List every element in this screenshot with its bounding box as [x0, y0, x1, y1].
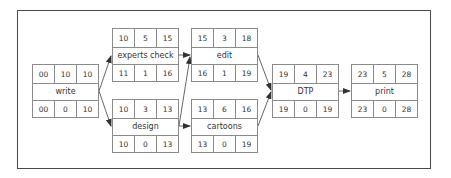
node-dtp: 19 4 23 DTP 19 0 19 [272, 64, 339, 118]
float: 1 [135, 65, 157, 82]
latest-start: 10 [113, 136, 135, 153]
earliest-finish: 15 [157, 29, 178, 47]
latest-finish: 10 [77, 101, 98, 118]
float: 0 [135, 136, 157, 153]
latest-start: 19 [273, 101, 295, 118]
node-label: experts check [113, 47, 178, 64]
duration: 3 [135, 100, 157, 118]
earliest-start: 10 [113, 100, 135, 118]
node-design: 10 3 13 design 10 0 13 [112, 99, 179, 153]
earliest-start: 10 [113, 29, 135, 47]
latest-finish: 19 [236, 136, 257, 153]
latest-finish: 19 [317, 101, 338, 118]
earliest-finish: 13 [157, 100, 178, 118]
node-write: 00 10 10 write 00 0 10 [32, 64, 99, 118]
float: 0 [55, 101, 77, 118]
duration: 10 [55, 65, 77, 83]
duration: 5 [135, 29, 157, 47]
duration: 5 [374, 65, 396, 83]
earliest-finish: 10 [77, 65, 98, 83]
earliest-start: 15 [192, 29, 214, 47]
earliest-start: 00 [33, 65, 55, 83]
latest-start: 11 [113, 65, 135, 82]
latest-finish: 16 [157, 65, 178, 82]
latest-start: 23 [352, 101, 374, 118]
node-label: write [33, 83, 98, 100]
earliest-finish: 16 [236, 100, 257, 118]
earliest-finish: 23 [317, 65, 338, 83]
float: 1 [214, 65, 236, 82]
node-label: cartoons [192, 118, 257, 135]
latest-start: 16 [192, 65, 214, 82]
earliest-start: 23 [352, 65, 374, 83]
node-label: print [352, 83, 417, 100]
duration: 4 [295, 65, 317, 83]
latest-start: 00 [33, 101, 55, 118]
node-label: edit [192, 47, 257, 64]
earliest-start: 19 [273, 65, 295, 83]
node-label: design [113, 118, 178, 135]
node-experts-check: 10 5 15 experts check 11 1 16 [112, 28, 179, 82]
duration: 3 [214, 29, 236, 47]
float: 0 [295, 101, 317, 118]
earliest-finish: 28 [396, 65, 417, 83]
node-print: 23 5 28 print 23 0 28 [351, 64, 418, 118]
float: 0 [374, 101, 396, 118]
float: 0 [214, 136, 236, 153]
latest-finish: 28 [396, 101, 417, 118]
latest-finish: 19 [236, 65, 257, 82]
node-label: DTP [273, 83, 338, 100]
earliest-start: 13 [192, 100, 214, 118]
earliest-finish: 18 [236, 29, 257, 47]
duration: 6 [214, 100, 236, 118]
node-cartoons: 13 6 16 cartoons 13 0 19 [191, 99, 258, 153]
latest-start: 13 [192, 136, 214, 153]
node-edit: 15 3 18 edit 16 1 19 [191, 28, 258, 82]
latest-finish: 13 [157, 136, 178, 153]
